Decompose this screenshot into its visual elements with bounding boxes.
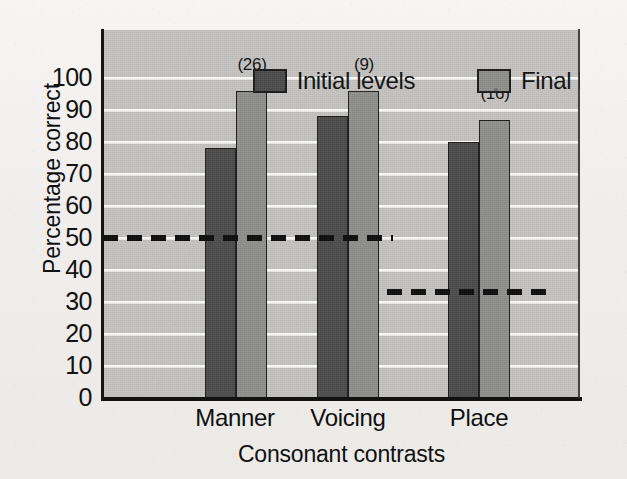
scan-artifact-speck (494, 88, 498, 92)
plot-right-border (578, 29, 580, 399)
chance-line-33 (387, 289, 547, 295)
bar-place-initial (448, 142, 479, 398)
legend-entry-initial-levels: Initial levels (253, 67, 415, 95)
bar-voicing-final (348, 91, 379, 398)
bar-voicing-initial (317, 116, 348, 398)
legend-label-initial-levels: Initial levels (297, 67, 415, 95)
gridline-90 (103, 109, 580, 111)
legend-label-final-levels: Final levels (521, 67, 580, 95)
y-tick-label-10: 10 (30, 353, 92, 378)
x-axis-title: Consonant contrasts (103, 441, 580, 468)
plot-area: (26) (9) (16) Initial levels Final level… (103, 30, 580, 398)
x-tick-label-place: Place (399, 404, 559, 432)
legend-entry-final-levels: Final levels (477, 67, 580, 95)
figure-root: (26) (9) (16) Initial levels Final level… (0, 0, 627, 479)
y-tick-label-20: 20 (30, 321, 92, 346)
y-tick-label-0: 0 (30, 385, 92, 410)
bar-manner-final (236, 91, 267, 398)
chart-legend: Initial levels Final levels (206, 63, 580, 99)
x-axis-line (101, 397, 582, 401)
bar-manner-initial (205, 148, 236, 398)
y-axis-line (101, 29, 104, 401)
chance-line-50 (103, 235, 393, 241)
legend-swatch-initial-icon (253, 69, 287, 93)
y-axis-title: Percentage correct (39, 49, 66, 309)
bar-place-final (479, 120, 510, 398)
